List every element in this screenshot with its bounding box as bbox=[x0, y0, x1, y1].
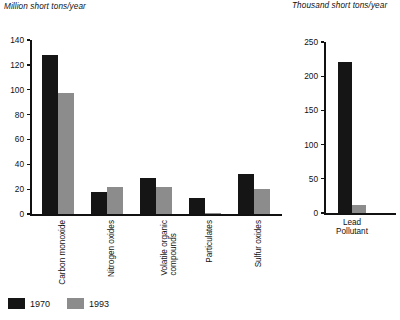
bar-1970-carbon-monoxide bbox=[42, 55, 58, 214]
right-y-axis bbox=[324, 42, 326, 214]
category-label: Sulfur oxides bbox=[254, 220, 263, 267]
left-y-axis bbox=[30, 40, 32, 215]
category-label: Particulates bbox=[205, 220, 214, 263]
y-tick-label: 60 bbox=[0, 134, 24, 144]
bar-1970-sulfur-oxides bbox=[238, 174, 254, 214]
y-tick bbox=[27, 89, 31, 90]
y-tick-label: 140 bbox=[0, 35, 24, 45]
bar-1993-particulates bbox=[205, 213, 221, 214]
bar-1970-nitrogen-oxides bbox=[91, 192, 107, 214]
y-tick-label: 0 bbox=[292, 208, 318, 218]
legend-item-1970: 1970 bbox=[8, 298, 50, 309]
lead-emissions-plot: 050100150200250 Lead Pollutant bbox=[292, 0, 400, 320]
y-tick bbox=[27, 139, 31, 140]
y-tick-label: 150 bbox=[292, 105, 318, 115]
y-tick bbox=[27, 189, 31, 190]
y-tick-label: 120 bbox=[0, 60, 24, 70]
y-tick bbox=[27, 39, 31, 40]
legend-item-1993: 1993 bbox=[67, 298, 109, 309]
bar-1993-lead bbox=[352, 205, 366, 213]
y-tick-label: 40 bbox=[0, 159, 24, 169]
main-emissions-plot: 020406080100120140 Carbon monoxideNitrog… bbox=[0, 0, 290, 320]
legend-label-1993: 1993 bbox=[89, 299, 109, 309]
y-tick-label: 80 bbox=[0, 110, 24, 120]
left-x-axis bbox=[30, 214, 282, 216]
y-tick-label: 250 bbox=[292, 37, 318, 47]
bar-1993-sulfur-oxides bbox=[254, 189, 270, 214]
y-tick-label: 100 bbox=[292, 140, 318, 150]
legend-label-1970: 1970 bbox=[30, 299, 50, 309]
y-tick-label: 100 bbox=[0, 85, 24, 95]
y-tick bbox=[321, 144, 325, 145]
category-label: Lead Pollutant bbox=[324, 218, 380, 237]
y-tick bbox=[27, 114, 31, 115]
legend-swatch-1993 bbox=[67, 298, 84, 309]
bar-1993-carbon-monoxide bbox=[58, 93, 74, 214]
category-label: Carbon monoxide bbox=[58, 220, 67, 285]
bar-1970-lead bbox=[338, 62, 352, 213]
bar-1970-volatile-organic-compounds bbox=[140, 178, 156, 214]
y-tick-label: 200 bbox=[292, 71, 318, 81]
y-tick-label: 50 bbox=[292, 174, 318, 184]
y-tick bbox=[321, 212, 325, 213]
y-tick bbox=[321, 178, 325, 179]
category-label: Volatile organic compounds bbox=[160, 220, 178, 276]
category-label: Nitrogen oxides bbox=[107, 220, 116, 277]
bar-1993-nitrogen-oxides bbox=[107, 187, 123, 214]
chart-figure: Million short tons/year Thousand short t… bbox=[0, 0, 400, 320]
y-tick bbox=[27, 164, 31, 165]
bar-1993-volatile-organic-compounds bbox=[156, 187, 172, 214]
legend-swatch-1970 bbox=[8, 298, 25, 309]
y-tick bbox=[321, 41, 325, 42]
y-tick bbox=[321, 110, 325, 111]
right-x-axis bbox=[324, 213, 396, 215]
legend: 19701993 bbox=[8, 298, 126, 309]
y-tick-label: 20 bbox=[0, 184, 24, 194]
y-tick bbox=[321, 76, 325, 77]
y-tick-label: 0 bbox=[0, 209, 24, 219]
y-tick bbox=[27, 64, 31, 65]
bar-1970-particulates bbox=[189, 198, 205, 214]
y-tick bbox=[27, 213, 31, 214]
